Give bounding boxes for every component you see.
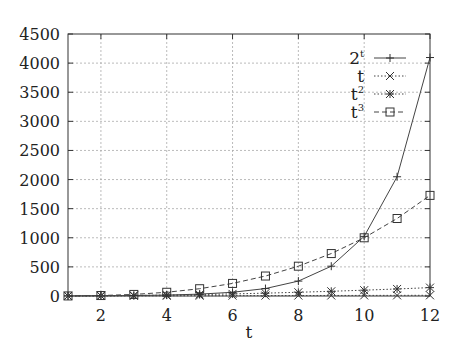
series-2pow-t [64,54,434,300]
plot-frame [68,34,430,296]
y-tick-label: 3500 [19,83,60,102]
plus-marker-icon [426,54,434,62]
series-tpow-2 [64,284,434,300]
y-tick-label: 500 [29,258,60,277]
legend: 2ttt2t3 [349,48,406,122]
square-marker-icon [393,215,401,223]
star-marker-icon [360,286,368,294]
legend-item: t3 [351,102,406,122]
line-chart: 050010001500200025003000350040004500 246… [0,0,462,360]
y-tick-label: 2500 [19,141,60,160]
x-tick-label: 4 [162,306,172,325]
x-tick-label: 8 [293,306,303,325]
legend-label: t2 [351,84,364,104]
square-marker-icon [261,272,269,280]
plus-marker-icon [294,277,302,285]
star-marker-icon [393,285,401,293]
y-tick-label: 3000 [19,112,60,131]
y-tick-label: 1500 [19,200,60,219]
y-tick-label: 2000 [19,171,60,190]
y-axis-ticks: 050010001500200025003000350040004500 [19,25,430,306]
plus-marker-icon [386,54,394,62]
star-marker-icon [386,90,394,98]
star-marker-icon [261,289,269,297]
x-tick-label: 12 [420,306,440,325]
x-tick-label: 2 [96,306,106,325]
legend-item: t2 [351,84,406,104]
y-tick-label: 0 [50,287,60,306]
series-tpow-3 [64,191,434,300]
x-tick-label: 6 [227,306,237,325]
star-marker-icon [327,287,335,295]
y-tick-label: 1000 [19,229,60,248]
star-marker-icon [196,291,204,299]
series-line [68,58,430,296]
y-tick-label: 4000 [19,54,60,73]
star-marker-icon [426,284,434,292]
x-tick-label: 10 [354,306,374,325]
legend-label: t [357,66,364,86]
grid-lines [68,34,430,296]
legend-label: 2t [349,48,364,68]
series-line [68,288,430,296]
series-line [68,195,430,296]
series-group [64,54,434,300]
star-marker-icon [294,288,302,296]
x-axis-label: t [246,322,253,342]
legend-item: 2t [349,48,406,68]
legend-label: t3 [351,102,364,122]
star-marker-icon [229,290,237,298]
plus-marker-icon [393,173,401,181]
y-tick-label: 4500 [19,25,60,44]
